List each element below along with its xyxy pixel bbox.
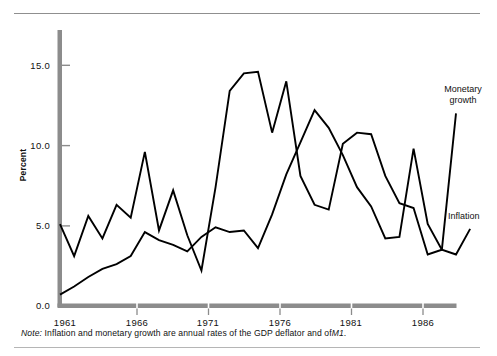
chart-plot-area [0,0,497,356]
x-tick-label-1986: 1986 [401,317,445,328]
x-tick-label-1976: 1976 [258,317,302,328]
x-axis-bar [58,304,457,309]
figure-note-italic-tail: M1 [332,328,344,338]
y-axis-ticks [62,65,70,226]
x-tick-label-1971: 1971 [186,317,230,328]
figure-container: 0.0 5.0 10.0 15.0 Percent 1961 1966 1971… [0,0,497,356]
figure-note-label: Note: [21,328,42,338]
bottom-divider-rule [14,347,480,348]
y-tick-label-15: 15.0 [16,60,50,71]
series-line-inflation [60,110,470,294]
y-tick-label-0: 0.0 [16,300,50,311]
figure-note: Note: Inflation and monetary growth are … [21,328,346,338]
series-annotation-monetary-line1: Monetary [444,84,482,94]
y-tick-label-5: 5.0 [16,220,50,231]
x-tick-label-1981: 1981 [329,317,373,328]
series-annotation-monetary-growth: Monetary growth [432,84,494,105]
series-line-monetary-growth [60,72,456,271]
series-annotation-inflation: Inflation [448,211,497,222]
x-axis-tick-stubs [137,309,423,316]
x-tick-label-1966: 1966 [115,317,159,328]
figure-note-end: . [344,328,347,338]
x-tick-label-1961: 1961 [43,317,87,328]
y-axis-title: Percent [18,135,28,195]
figure-note-text: Inflation and monetary growth are annual… [45,328,332,338]
series-annotation-monetary-line2: growth [449,95,476,105]
y-axis-bar [58,30,63,307]
